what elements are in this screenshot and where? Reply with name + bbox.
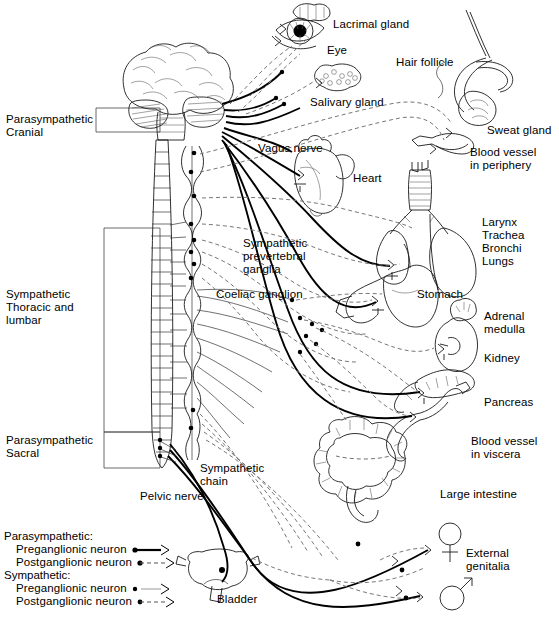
sympathetic-chain-illustration: [182, 146, 204, 460]
lacrimal-gland-illustration: [293, 4, 330, 21]
organ-label-sweat-gland: Sweat gland: [487, 124, 551, 137]
eye-illustration: [272, 18, 324, 49]
legend-entry-symp-postganglionic: Postganglionic neuron: [16, 595, 194, 608]
legend-label-para-preganglionic: Preganglionic neuron: [16, 543, 127, 556]
division-label-sympathetic-thoracolumbar: Sympathetic Thoracic and lumbar: [6, 288, 74, 327]
organ-label-stomach: Stomach: [417, 288, 463, 301]
organ-label-vagus-nerve: Vagus nerve: [258, 142, 323, 155]
legend-entry-para-preganglionic: Preganglionic neuron: [16, 543, 194, 556]
sympathetic-postganglionic-viscera: [296, 293, 434, 420]
prevertebral-ganglion-dots: [290, 298, 324, 354]
organ-label-eye: Eye: [327, 44, 347, 57]
visceral-blood-vessel-illustration: [387, 382, 470, 461]
organ-label-external-genitalia: External genitalia: [466, 547, 510, 573]
legend-heading-sympathetic: Sympathetic:: [4, 569, 194, 582]
respiratory-illustration: [376, 160, 476, 297]
organ-label-bladder: Bladder: [217, 593, 257, 606]
legend-label-symp-postganglionic: Postganglionic neuron: [16, 595, 132, 608]
legend-swatch-solid-thick: [131, 544, 175, 556]
organ-label-larynx-trachea-bronchi-lungs: Larynx Trachea Bronchi Lungs: [482, 216, 524, 268]
large-intestine-illustration: [314, 417, 407, 523]
organ-label-lacrimal-gland: Lacrimal gland: [333, 18, 409, 31]
organ-label-pelvic-nerve: Pelvic nerve: [140, 490, 204, 503]
organ-label-heart: Heart: [353, 172, 382, 185]
adrenal-kidney-illustration: [435, 298, 477, 371]
autonomic-nervous-system-diagram: Parasympathetic Cranial Sympathetic Thor…: [0, 0, 559, 628]
organ-label-hair-follicle: Hair follicle: [396, 56, 454, 69]
sympathetic-postganglionic-upper: [200, 102, 452, 392]
brain-illustration: [123, 43, 233, 140]
legend-swatch-dashed-symp: [136, 596, 180, 608]
stomach-illustration: [336, 244, 438, 327]
terminal-arrowheads: [275, 24, 452, 602]
sweat-gland-illustration: [459, 61, 513, 125]
organ-label-adrenal-medulla: Adrenal medulla: [484, 310, 525, 336]
division-label-para-cranial: Parasympathetic Cranial: [6, 113, 93, 139]
prevertebral-ganglia-fan: [197, 289, 292, 438]
organ-label-blood-vessel-periphery: Blood vessel in periphery: [470, 146, 536, 172]
legend-label-symp-preganglionic: Preganglionic neuron: [16, 582, 127, 595]
salivary-gland-illustration: [315, 64, 361, 91]
legend-swatch-solid-thin: [131, 583, 175, 595]
legend-label-para-postganglionic: Postganglionic neuron: [16, 556, 132, 569]
spinal-cord: [151, 140, 173, 468]
organ-label-blood-vessel-viscera: Blood vessel in viscera: [471, 435, 537, 461]
organ-label-kidney: Kidney: [484, 352, 520, 365]
division-label-para-sacral: Parasympathetic Sacral: [6, 434, 93, 460]
organ-label-sympathetic-chain: Sympathetic chain: [200, 462, 264, 488]
communicating-rami: [170, 222, 187, 408]
peripheral-blood-vessel-illustration: [412, 134, 474, 155]
organ-label-sympathetic-prevertebral-ganglia: Sympathetic prevertebral ganglia: [243, 237, 307, 276]
organ-label-pancreas: Pancreas: [484, 396, 533, 409]
cranial-parasympathetic-postganglionic: [230, 40, 316, 114]
pancreas-illustration: [394, 370, 474, 413]
organ-label-coeliac-ganglion: Coeliac ganglion: [216, 288, 303, 301]
legend-entry-symp-preganglionic: Preganglionic neuron: [16, 582, 194, 595]
sacral-sympathetic-postganglionic: [200, 414, 426, 598]
organ-label-salivary-gland: Salivary gland: [310, 96, 384, 109]
legend-heading-parasympathetic: Parasympathetic:: [4, 530, 194, 543]
legend-entry-para-postganglionic: Postganglionic neuron: [16, 556, 194, 569]
cranial-parasympathetic-preganglionic: [222, 72, 300, 152]
legend-swatch-dashed-para: [136, 557, 180, 569]
pelvic-nerve-path: [158, 440, 428, 607]
division-brackets: [96, 108, 160, 468]
organ-label-large-intestine: Large intestine: [440, 488, 517, 501]
legend: Parasympathetic: Preganglionic neuron Po…: [4, 530, 194, 608]
